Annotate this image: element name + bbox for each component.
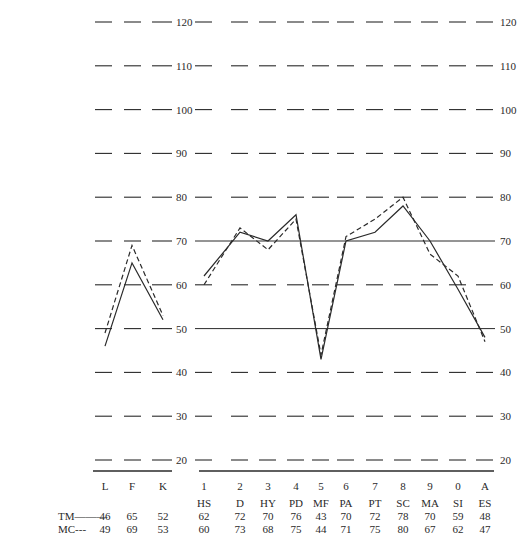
tm-score: 72 — [235, 510, 246, 522]
scale-abbrev: PD — [289, 497, 303, 509]
mc-score: 75 — [370, 523, 381, 535]
scale-abbrev: HS — [197, 497, 211, 509]
legend-mc: MC--- — [58, 523, 86, 535]
mc-score: 73 — [235, 523, 246, 535]
mc-score: 71 — [341, 523, 352, 535]
tm-score: 59 — [453, 510, 464, 522]
tm-score: 70 — [263, 510, 274, 522]
scale-abbrev: SI — [453, 497, 463, 509]
scale-abbrev: HY — [260, 497, 276, 509]
scale-abbrev: SC — [396, 497, 409, 509]
tm-score: 65 — [127, 510, 138, 522]
scale-abbrev: PA — [339, 497, 352, 509]
scale-abbrev: D — [236, 497, 244, 509]
mc-score: 49 — [100, 523, 111, 535]
tm-score: 48 — [480, 510, 491, 522]
mc-score: 80 — [398, 523, 409, 535]
tm-score: 70 — [425, 510, 436, 522]
tm-score: 76 — [291, 510, 302, 522]
tm-score: 70 — [341, 510, 352, 522]
mc-score: 69 — [127, 523, 138, 535]
tm-score: 78 — [398, 510, 409, 522]
mc-score: 44 — [316, 523, 327, 535]
tm-score: 52 — [158, 510, 169, 522]
mc-score: 68 — [263, 523, 274, 535]
score-table: TM——— MC--- 464965695253HS6260D7273HY706… — [0, 0, 526, 553]
tm-score: 46 — [100, 510, 111, 522]
mc-score: 47 — [480, 523, 491, 535]
scale-abbrev: MF — [313, 497, 329, 509]
tm-score: 72 — [370, 510, 381, 522]
mc-score: 67 — [425, 523, 436, 535]
scale-abbrev: MA — [421, 497, 439, 509]
tm-score: 62 — [199, 510, 210, 522]
mc-score: 53 — [158, 523, 169, 535]
mc-score: 62 — [453, 523, 464, 535]
scale-abbrev: ES — [479, 497, 492, 509]
scale-abbrev: PT — [369, 497, 382, 509]
tm-score: 43 — [316, 510, 327, 522]
mc-score: 75 — [291, 523, 302, 535]
mc-score: 60 — [199, 523, 210, 535]
